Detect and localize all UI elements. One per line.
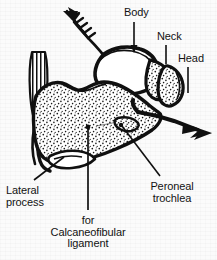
label-head-line-0: Head [178,53,204,65]
label-calcaneofibular-line-2: ligament [22,238,154,250]
label-peroneal-trochlea-line-1: trochlea [134,193,210,205]
label-lateral-process: Lateral process [6,185,44,208]
label-calcaneofibular-line-0: for [22,215,154,227]
label-body-line-0: Body [124,7,149,19]
label-lateral-process-line-0: Lateral [6,185,44,197]
label-body: Body [124,7,149,19]
label-lateral-process-line-1: process [6,197,44,209]
talus-head [158,66,183,106]
label-peroneal-trochlea-line-0: Peroneal [134,181,210,193]
label-neck-line-0: Neck [157,31,182,43]
label-neck: Neck [157,31,182,43]
label-head: Head [178,53,204,65]
peroneal-trochlea [115,117,139,131]
label-peroneal-trochlea: Peroneal trochlea [134,181,210,204]
label-calcaneofibular: for Calcaneofibular ligament [22,215,154,250]
anatomical-figure: Body Neck Head Lateral process for Calca… [0,0,217,260]
